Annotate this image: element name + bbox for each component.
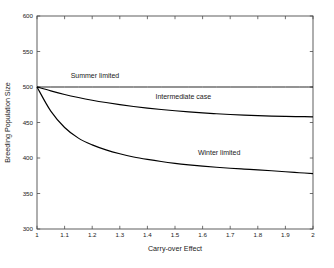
x-tick-label: 1.6 bbox=[198, 231, 207, 238]
y-tick-label: 600 bbox=[23, 12, 34, 19]
y-tick-label: 500 bbox=[23, 83, 34, 90]
y-tick-label: 550 bbox=[23, 48, 34, 55]
y-axis-title: Breeding Population Size bbox=[3, 82, 12, 163]
x-tick-label: 1.2 bbox=[88, 231, 97, 238]
series-label-winter-limited: Winter limited bbox=[198, 149, 241, 156]
x-tick-label: 2 bbox=[311, 231, 315, 238]
x-tick-label: 1.1 bbox=[60, 231, 69, 238]
x-tick-label: 1.5 bbox=[171, 231, 180, 238]
x-tick-label: 1.8 bbox=[253, 231, 262, 238]
chart-figure: 11.11.21.31.41.51.61.71.81.92 3003504004… bbox=[0, 0, 334, 268]
x-tick-label: 1.7 bbox=[226, 231, 235, 238]
y-tick-label: 450 bbox=[23, 119, 34, 126]
y-tick-label: 300 bbox=[23, 225, 34, 232]
x-tick-label: 1.3 bbox=[115, 231, 124, 238]
x-tick-label: 1.9 bbox=[281, 231, 290, 238]
x-axis-title: Carry-over Effect bbox=[148, 244, 202, 253]
series-label-summer-limited: Summer limited bbox=[71, 72, 120, 79]
chart-background bbox=[0, 0, 334, 268]
y-tick-label: 400 bbox=[23, 154, 34, 161]
line-chart: 11.11.21.31.41.51.61.71.81.92 3003504004… bbox=[0, 0, 334, 268]
x-tick-label: 1.4 bbox=[143, 231, 152, 238]
y-tick-label: 350 bbox=[23, 190, 34, 197]
x-tick-label: 1 bbox=[35, 231, 39, 238]
series-label-intermediate-case: Intermediate case bbox=[155, 93, 211, 100]
